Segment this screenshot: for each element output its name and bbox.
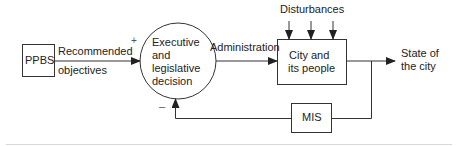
administration-label: Administration: [210, 41, 280, 54]
recommended-label: Recommended: [58, 45, 133, 58]
decision-line-3: legislative: [152, 62, 200, 75]
mis-label: MIS: [302, 111, 322, 124]
disturbances-label: Disturbances: [280, 3, 344, 16]
plus-sign: +: [131, 34, 137, 47]
feedback-line-right: [331, 61, 372, 119]
state-of-city-line-1: State of: [401, 47, 439, 60]
objectives-label: objectives: [58, 64, 107, 77]
city-line-1: City and: [289, 49, 329, 62]
state-of-city-line-2: the city: [401, 60, 436, 73]
minus-sign: –: [159, 100, 165, 113]
decision-line-2: and: [152, 49, 170, 62]
feedback-arrow: [176, 99, 292, 119]
decision-line-1: Executive: [152, 36, 200, 49]
ppbs-label: PPBS: [25, 54, 54, 67]
decision-line-4: decision: [152, 75, 192, 88]
city-line-2: its people: [288, 62, 335, 75]
